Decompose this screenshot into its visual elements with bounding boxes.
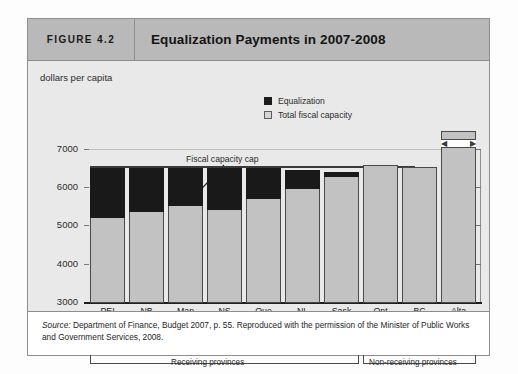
axis-break-left-arrow-icon: ◀ bbox=[441, 140, 447, 148]
figure-header: FIGURE 4.2 Equalization Payments in 2007… bbox=[28, 19, 489, 61]
bar-NS-equalization bbox=[207, 168, 242, 210]
bar-NS[interactable] bbox=[207, 168, 242, 303]
bar-Ont[interactable] bbox=[363, 165, 398, 303]
bar-Man[interactable] bbox=[168, 168, 203, 303]
bracket-line-nonreceiving-left bbox=[363, 363, 367, 364]
axis-break-right-arrow-icon: ▶ bbox=[470, 140, 476, 148]
screenshot-root: FIGURE 4.2 Equalization Payments in 2007… bbox=[0, 0, 518, 374]
bar-NB[interactable] bbox=[129, 168, 164, 303]
bar-NL-equalization bbox=[285, 170, 320, 189]
bar-BC[interactable] bbox=[402, 167, 437, 303]
source-note: Source: Department of Finance, Budget 20… bbox=[28, 311, 489, 355]
bar-Que[interactable] bbox=[246, 168, 281, 303]
figure-number: FIGURE 4.2 bbox=[28, 19, 135, 60]
bar-series-group: ◀ ▶ bbox=[28, 61, 489, 313]
figure-title: Equalization Payments in 2007-2008 bbox=[135, 32, 489, 47]
bracket-line-receiving-right bbox=[282, 363, 359, 364]
source-note-text: Department of Finance, Budget 2007, p. 5… bbox=[42, 320, 469, 342]
bar-Alta-axis-break: ◀ ▶ bbox=[441, 139, 476, 148]
bar-Sask-equalization bbox=[324, 172, 359, 177]
chart-panel: dollars per capita Equalization Total fi… bbox=[28, 61, 489, 313]
bar-Man-equalization bbox=[168, 168, 203, 206]
bracket-line-nonreceiving-right bbox=[472, 363, 476, 364]
bar-NL[interactable] bbox=[285, 170, 320, 303]
group-label-receiving-provinces: Receiving provinces bbox=[171, 358, 244, 367]
group-label-non-receiving-provinces: Non-receiving provinces bbox=[369, 358, 457, 367]
bar-PEI[interactable] bbox=[90, 168, 125, 303]
bar-Alta[interactable]: ◀ ▶ bbox=[441, 131, 476, 303]
bracket-line-receiving-left bbox=[90, 363, 167, 364]
bar-PEI-equalization bbox=[90, 168, 125, 218]
bar-Sask[interactable] bbox=[324, 172, 359, 303]
bar-Que-equalization bbox=[246, 168, 281, 199]
group-brackets: Receiving provinces Non-receiving provin… bbox=[28, 355, 489, 374]
figure-box: FIGURE 4.2 Equalization Payments in 2007… bbox=[27, 18, 490, 356]
source-note-prefix: Source: bbox=[42, 320, 71, 330]
bar-NB-equalization bbox=[129, 168, 164, 212]
